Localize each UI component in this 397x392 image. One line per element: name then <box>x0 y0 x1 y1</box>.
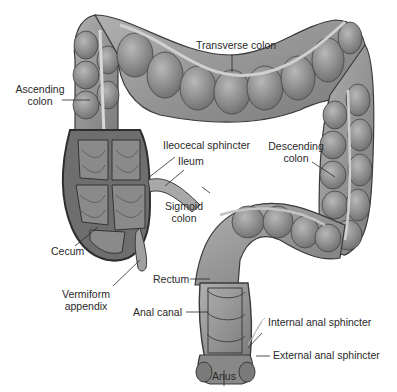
label-ascending-colon-line1: Ascending <box>12 83 68 95</box>
label-cecum: Cecum <box>51 245 84 257</box>
rectum <box>199 283 251 360</box>
label-sigmoid-colon-line2: colon <box>162 212 206 224</box>
label-vermiform-appendix: Vermiform appendix <box>58 288 114 312</box>
label-ascending-colon-line2: colon <box>12 95 68 107</box>
label-descending-colon-line1: Descending <box>266 140 326 152</box>
label-vermiform-appendix-line2: appendix <box>58 300 114 312</box>
label-sigmoid-colon-line1: Sigmoid <box>162 200 206 212</box>
label-sigmoid-colon: Sigmoid colon <box>162 200 206 224</box>
label-transverse-colon: Transverse colon <box>196 39 276 51</box>
label-anus: Anus <box>212 370 236 382</box>
label-rectum: Rectum <box>153 273 189 285</box>
label-ileocecal-sphincter: Ileocecal sphincter <box>163 139 250 151</box>
label-internal-anal-sphincter: Internal anal sphincter <box>268 316 371 328</box>
label-ascending-colon: Ascending colon <box>12 83 68 107</box>
label-ileum: Ileum <box>178 155 204 167</box>
label-anal-canal: Anal canal <box>133 306 182 318</box>
sigmoid-colon <box>195 203 345 285</box>
label-descending-colon-line2: colon <box>266 152 326 164</box>
label-vermiform-appendix-line1: Vermiform <box>58 288 114 300</box>
label-descending-colon: Descending colon <box>266 140 326 164</box>
label-external-anal-sphincter: External anal sphincter <box>273 349 380 361</box>
large-intestine-diagram <box>0 0 397 392</box>
transverse-colon <box>95 15 365 122</box>
